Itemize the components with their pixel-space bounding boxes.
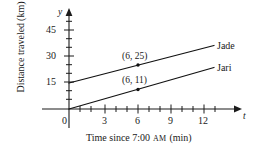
series-label-jari: Jari — [217, 63, 231, 73]
x-tick-label-6: 6 — [135, 116, 140, 126]
chart-figure: y t 45 30 15 0 3 6 9 12 (6, 25) (6, 11) … — [0, 0, 261, 151]
x-axis-title-main: Time since 7:00 — [86, 132, 150, 143]
annotation-jade-point: (6, 25) — [122, 52, 147, 62]
y-axis-variable-label: y — [58, 8, 62, 18]
y-axis-title-line1: Distance traveled — [15, 23, 26, 93]
data-point-jari — [136, 88, 139, 91]
series-line-jari — [69, 68, 214, 110]
data-point-jade — [136, 63, 139, 66]
x-tick-label-0: 0 — [62, 116, 67, 126]
x-tick-label-12: 12 — [198, 116, 208, 126]
y-tick-label-15: 15 — [46, 77, 56, 87]
annotation-jari-point: (6, 11) — [122, 76, 147, 86]
y-tick-label-30: 30 — [46, 51, 56, 61]
x-axis-title-meridiem: AM — [153, 134, 166, 143]
y-axis-arrow-icon — [66, 8, 73, 16]
x-tick-label-9: 9 — [168, 116, 173, 126]
x-axis-arrow-icon — [234, 106, 242, 113]
x-axis-title: Time since 7:00AM(min) — [86, 133, 192, 143]
y-tick-label-45: 45 — [46, 25, 56, 35]
y-axis-title: Distance traveled (km) — [3, 0, 37, 97]
series-label-jade: Jade — [217, 41, 235, 51]
x-axis-variable-label: t — [243, 112, 246, 122]
y-axis-title-line2: (km) — [15, 1, 26, 20]
x-axis-title-unit: (min) — [169, 132, 191, 143]
x-tick-label-3: 3 — [102, 116, 107, 126]
